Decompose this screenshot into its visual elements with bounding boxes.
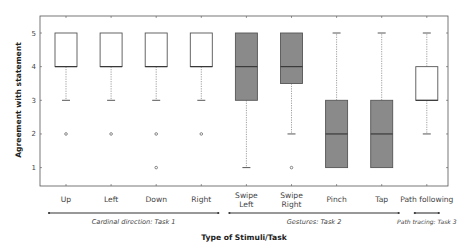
x-category-label: Up bbox=[61, 195, 72, 204]
box-tap bbox=[371, 33, 393, 168]
x-axis-title: Type of Stimuli/Task bbox=[201, 233, 287, 242]
x-category-label: Left bbox=[104, 195, 118, 204]
group-brackets: Cardinal direction: Task 1Gestures: Task… bbox=[48, 212, 457, 226]
group-label: Path tracing: Task 3 bbox=[397, 218, 457, 226]
y-tick-label: 5 bbox=[32, 30, 36, 38]
x-category-label: Down bbox=[145, 195, 167, 204]
group-bracket: Cardinal direction: Task 1 bbox=[48, 212, 220, 226]
iqr-box bbox=[190, 33, 212, 67]
y-tick-label: 3 bbox=[32, 97, 36, 105]
box-up bbox=[55, 33, 77, 135]
box-pinch bbox=[326, 33, 348, 168]
x-category-label: Pinch bbox=[326, 195, 347, 204]
x-category-label: Tap bbox=[374, 195, 388, 204]
group-line-end bbox=[217, 212, 219, 214]
box-right bbox=[190, 33, 212, 135]
outlier-point bbox=[290, 166, 293, 169]
outlier-point bbox=[65, 133, 68, 136]
group-label: Cardinal direction: Task 1 bbox=[92, 218, 176, 226]
box-left bbox=[100, 33, 122, 135]
box-path-following bbox=[416, 33, 438, 134]
box-swipe-left bbox=[235, 33, 257, 168]
x-category-label: Path following bbox=[400, 195, 453, 204]
x-category-label: Right bbox=[191, 195, 211, 204]
iqr-box bbox=[145, 33, 167, 67]
box-down bbox=[145, 33, 167, 169]
x-category-label: Right bbox=[282, 200, 302, 209]
group-line-end bbox=[398, 212, 400, 214]
box-series bbox=[55, 33, 438, 169]
group-bracket: Path tracing: Task 3 bbox=[397, 212, 457, 226]
group-label: Gestures: Task 2 bbox=[287, 218, 342, 226]
y-tick-label: 4 bbox=[32, 63, 37, 71]
y-tick-label: 1 bbox=[32, 164, 36, 172]
box-plot-chart: 12345 UpLeftDownRightSwipeLeftSwipeRight… bbox=[0, 0, 472, 250]
group-line-end bbox=[414, 212, 416, 214]
iqr-box bbox=[416, 67, 438, 101]
group-bracket: Gestures: Task 2 bbox=[228, 212, 400, 226]
y-tick-label: 2 bbox=[32, 130, 36, 138]
y-axis-title: Agreement with statement bbox=[14, 42, 23, 158]
outlier-point bbox=[155, 133, 158, 136]
outlier-point bbox=[110, 133, 113, 136]
group-line-end bbox=[228, 212, 230, 214]
x-category-label: Left bbox=[239, 200, 253, 209]
outlier-point bbox=[200, 133, 203, 136]
box-swipe-right bbox=[281, 33, 303, 169]
outlier-point bbox=[155, 166, 158, 169]
iqr-box bbox=[100, 33, 122, 67]
iqr-box bbox=[281, 33, 303, 83]
group-line-end bbox=[48, 212, 50, 214]
group-line-end bbox=[438, 212, 440, 214]
iqr-box bbox=[55, 33, 77, 67]
